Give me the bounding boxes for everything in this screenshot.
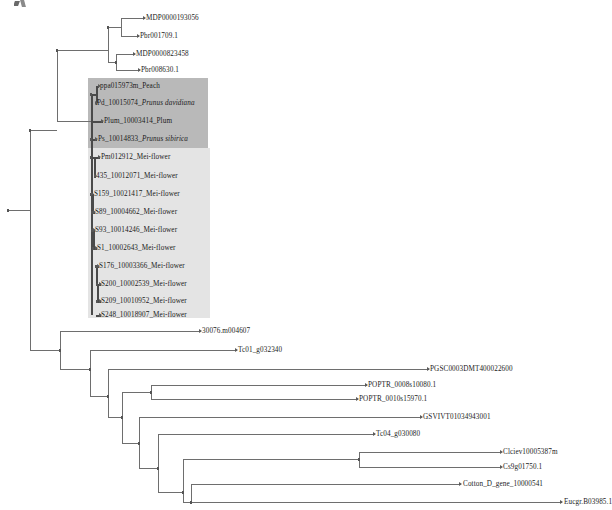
node-lower-a [157, 467, 159, 470]
leaf-label-text: Cs9g01750.1 [503, 463, 542, 471]
rosid-connector [90, 350, 91, 396]
leaf-label-l20: Tc01_g032340 [238, 346, 282, 354]
branch-l28 [191, 484, 461, 485]
leaf-label-text: S248_10018907_Mei-flower [101, 311, 187, 319]
leaf-label-text: S176_10003366_Mei-flower [99, 262, 185, 270]
branch-l20 [90, 350, 237, 351]
rosaceae-stem [30, 130, 57, 131]
leaf-tip-arrow-icon [459, 482, 462, 486]
leaf-label-l7: Plum_10003414_Plum [104, 117, 172, 125]
leaf-label-text: 30076.m004607 [202, 327, 250, 335]
mdp193056-pbr1709-node [108, 27, 121, 28]
cotton-eucgr-connector [191, 484, 192, 502]
node-mei-e [92, 247, 94, 250]
poptr-node [122, 392, 151, 393]
branch-l4 [116, 70, 140, 71]
leaf-label-l27: Cs9g01750.1 [503, 463, 542, 471]
malus-pyrus-stem [57, 50, 108, 51]
leaf-label-l2: Pbr001709.1 [140, 32, 178, 40]
leaf-label-l25: Tc04_g030080 [376, 430, 420, 438]
malvid-connector [108, 369, 109, 417]
leaf-label-l1: MDP0000193056 [146, 14, 199, 22]
node-rosid [89, 368, 91, 371]
leaf-label-text: S89_10004662_Mei-flower [95, 208, 177, 216]
leaf-label-l22: POPTR_0008s10080.1 [368, 381, 436, 389]
tc04-rest-connector [158, 434, 159, 492]
citrus-stem [183, 459, 359, 460]
leaf-label-l4: Pbr008630.1 [141, 66, 179, 74]
node-malvid [107, 395, 109, 398]
cropped-scrap-artifact [14, 0, 32, 9]
node-mei-a [90, 156, 92, 159]
leaf-label-l9: Pm012912_Mei-flower [101, 153, 170, 161]
node-poptr-rest [108, 417, 122, 418]
node-poptr [150, 391, 152, 394]
leaf-label-l21: PGSC0003DMT400022600 [430, 365, 513, 373]
leaf-label-text: Ps_10014833_ [98, 135, 142, 143]
leaf-label-text: S1_10002643_Mei-flower [97, 244, 175, 252]
branch-l21 [108, 369, 429, 370]
branch-l22 [151, 385, 367, 386]
leaf-label-l26: Clciev10005387m [503, 448, 558, 456]
leaf-label-l8: Ps_10014833_Prunus sibirica [98, 135, 188, 143]
leaf-label-text: MDP0000823458 [136, 50, 189, 58]
leaf-label-text: Pm012912_Mei-flower [101, 153, 170, 161]
leaf-label-text: ppa015973m_Peach [100, 82, 160, 90]
prunus-stem [57, 121, 91, 122]
leaf-label-text: Clciev10005387m [503, 448, 558, 456]
leaf-label-l18: S248_10018907_Mei-flower [101, 311, 187, 319]
leaf-label-text: PGSC0003DMT400022600 [430, 365, 513, 373]
node-lower-b [182, 491, 184, 494]
rosaceae-connector [57, 50, 58, 121]
leaf-label-l24: GSVIVT01034943001 [423, 413, 491, 421]
node-tc04-rest [139, 468, 158, 469]
leaf-label-text: POPTR_0010s15970.1 [359, 395, 427, 403]
node-outgroup [59, 349, 61, 352]
leaf-label-text: GSVIVT01034943001 [423, 413, 491, 421]
node-root [7, 209, 9, 212]
node-root-a [29, 129, 31, 132]
leaf-species-name: Prunus davidiana [142, 99, 195, 107]
node-rosaceae [56, 49, 58, 52]
leaf-label-text: 435_10012071_Mei-flower [96, 172, 178, 180]
leaf-label-l17: S209_10010952_Mei-flower [101, 297, 187, 305]
root-connector [30, 130, 31, 350]
leaf-label-text: MDP0000193056 [146, 14, 199, 22]
leaf-tip-arrow-icon [560, 500, 563, 504]
branch-l27 [359, 467, 501, 468]
leaf-label-l19: 30076.m004607 [202, 327, 250, 335]
node-maleae-b [115, 61, 117, 64]
node-sibirica [90, 138, 92, 141]
branch-l29 [191, 502, 562, 503]
leaf-label-l16: S200_10002539_Mei-flower [101, 280, 187, 288]
leaf-label-text: S200_10002539_Mei-flower [101, 280, 187, 288]
leaf-label-text: Cotton_D_gene_10000541 [463, 480, 543, 488]
leaf-species-name: Prunus sibirica [142, 135, 188, 143]
branch-l24 [139, 417, 422, 418]
maleae-connector [108, 27, 109, 62]
node-vitis [121, 416, 123, 419]
leaf-label-text: Eucgr.B03985.1 [564, 498, 612, 506]
leaf-label-l29: Eucgr.B03985.1 [564, 498, 612, 506]
leaf-label-l28: Cotton_D_gene_10000541 [463, 480, 543, 488]
leaf-label-l11: S159_10021417_Mei-flower [94, 190, 180, 198]
leaf-label-text: Plum_10003414_Plum [104, 117, 172, 125]
branch-l1 [121, 18, 145, 19]
outgroup-stem [30, 350, 60, 351]
lower-connector [183, 459, 184, 502]
malvid-fabid-stem [90, 396, 108, 397]
node-lower [158, 492, 183, 493]
leaf-label-text: Tc01_g032340 [238, 346, 282, 354]
branch-l23 [151, 399, 358, 400]
leaf-label-l5: ppa015973m_Peach [100, 82, 160, 90]
leaf-label-l15: S176_10003366_Mei-flower [99, 262, 185, 270]
leaf-label-text: S93_10014246_Mei-flower [95, 226, 177, 234]
branch-l26 [359, 452, 501, 453]
s176-s200-connector [96, 266, 98, 284]
leaf-label-text: Pbr008630.1 [141, 66, 179, 74]
leaf-label-text: Pbr001709.1 [140, 32, 178, 40]
node-peach-davidiana [90, 93, 92, 96]
leaf-label-text: S209_10010952_Mei-flower [101, 297, 187, 305]
branch-l19 [60, 331, 201, 332]
phylogenetic-tree-canvas: MDP0000193056Pbr001709.1MDP0000823458Pbr… [0, 0, 612, 510]
